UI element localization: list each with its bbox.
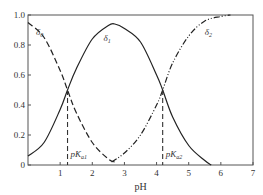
y-tick-label: 0.8 bbox=[14, 40, 26, 50]
y-tick-label: 0 bbox=[21, 160, 26, 170]
y-tick-label: 0.2 bbox=[14, 130, 25, 140]
x-tick-label: 4 bbox=[154, 168, 159, 178]
x-tick-label: 5 bbox=[186, 168, 191, 178]
series-label-delta1: δ1 bbox=[104, 33, 111, 44]
speciation-chart: 123456700.20.40.60.81.0 δ0δ1δ2pKa1pKa2 p… bbox=[0, 0, 263, 195]
pka1-label: pKa1 bbox=[70, 149, 88, 160]
y-tick-label: 0.4 bbox=[14, 100, 26, 110]
x-tick-label: 7 bbox=[251, 168, 256, 178]
series-delta0 bbox=[28, 23, 115, 163]
x-tick-label: 2 bbox=[90, 168, 95, 178]
pka2-label: pKa2 bbox=[165, 149, 183, 160]
series-delta1 bbox=[28, 24, 211, 165]
plot-frame bbox=[28, 15, 253, 165]
x-tick-label: 1 bbox=[58, 168, 63, 178]
y-tick-label: 1.0 bbox=[14, 10, 26, 20]
series-label-delta2: δ2 bbox=[205, 27, 212, 38]
series-label-delta0: δ0 bbox=[36, 27, 43, 38]
marks: δ0δ1δ2pKa1pKa2 bbox=[28, 15, 231, 165]
y-tick-label: 0.6 bbox=[14, 70, 26, 80]
x-axis-title: pH bbox=[134, 181, 146, 192]
series-delta2 bbox=[112, 15, 231, 162]
x-tick-label: 6 bbox=[219, 168, 224, 178]
x-tick-label: 3 bbox=[122, 168, 127, 178]
